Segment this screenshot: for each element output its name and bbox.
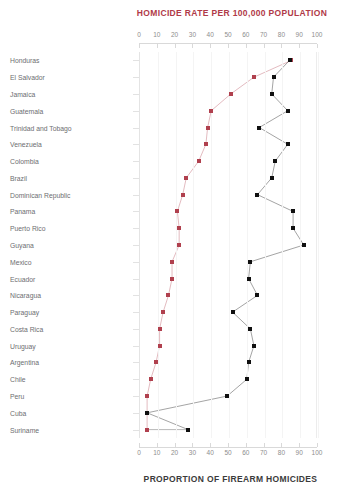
firearm-proportion-point[interactable] bbox=[248, 260, 252, 264]
homicide-rate-point[interactable] bbox=[177, 243, 181, 247]
homicide-rate-point[interactable] bbox=[177, 226, 181, 230]
homicide-rate-point[interactable] bbox=[145, 394, 149, 398]
firearm-proportion-point[interactable] bbox=[273, 159, 277, 163]
row-tick bbox=[133, 77, 139, 78]
axis-tick-label: 20 bbox=[171, 31, 178, 38]
homicide-rate-point[interactable] bbox=[229, 92, 233, 96]
axis-tick-label: 80 bbox=[278, 31, 285, 38]
axis-tick-label: 40 bbox=[207, 449, 214, 456]
homicide-rate-point[interactable] bbox=[175, 209, 179, 213]
axis-tick-label: 40 bbox=[207, 31, 214, 38]
category-label: Cuba bbox=[10, 409, 26, 416]
axis-tick-mark bbox=[281, 44, 282, 48]
axis-tick-label: 10 bbox=[153, 449, 160, 456]
axis-tick-label: 60 bbox=[242, 449, 249, 456]
category-label: Guatemala bbox=[10, 107, 43, 114]
firearm-proportion-point[interactable] bbox=[247, 360, 251, 364]
homicide-rate-point[interactable] bbox=[181, 193, 185, 197]
axis-tick-label: 50 bbox=[224, 449, 231, 456]
firearm-proportion-point[interactable] bbox=[288, 58, 292, 62]
category-label: Chile bbox=[10, 376, 26, 383]
axis-tick-label: 70 bbox=[260, 449, 267, 456]
homicide-rate-point[interactable] bbox=[158, 327, 162, 331]
firearm-proportion-point[interactable] bbox=[270, 176, 274, 180]
axis-tick-label: 90 bbox=[296, 449, 303, 456]
bottom-axis-title: PROPORTION OF FIREARM HOMICIDES bbox=[128, 474, 333, 484]
category-label: Honduras bbox=[10, 57, 39, 64]
axis-tick-mark bbox=[210, 44, 211, 48]
homicide-rate-point[interactable] bbox=[158, 344, 162, 348]
axis-tick-label: 80 bbox=[278, 449, 285, 456]
firearm-proportion-point[interactable] bbox=[247, 277, 251, 281]
axis-tick-label: 30 bbox=[189, 449, 196, 456]
category-label: Uruguay bbox=[10, 342, 36, 349]
firearm-proportion-point[interactable] bbox=[255, 193, 259, 197]
axis-tick-mark bbox=[264, 44, 265, 48]
category-label-column: HondurasEl SalvadorJamaicaGuatemalaTrini… bbox=[10, 52, 130, 438]
homicide-rate-point[interactable] bbox=[170, 277, 174, 281]
row-tick bbox=[133, 60, 139, 61]
axis-tick-label: 50 bbox=[224, 31, 231, 38]
homicide-rate-point[interactable] bbox=[161, 310, 165, 314]
row-tick bbox=[133, 111, 139, 112]
gridline bbox=[265, 52, 266, 438]
firearm-proportion-point[interactable] bbox=[255, 293, 259, 297]
row-tick bbox=[133, 211, 139, 212]
category-label: Costa Rica bbox=[10, 325, 43, 332]
category-label: Argentina bbox=[10, 359, 39, 366]
homicide-rate-point[interactable] bbox=[204, 142, 208, 146]
top-axis: 0102030405060708090100 bbox=[139, 31, 317, 45]
row-tick bbox=[133, 295, 139, 296]
row-tick bbox=[133, 178, 139, 179]
homicide-rate-point[interactable] bbox=[184, 176, 188, 180]
firearm-proportion-point[interactable] bbox=[145, 411, 149, 415]
axis-tick-mark bbox=[264, 443, 265, 447]
axis-tick-mark bbox=[299, 443, 300, 447]
row-tick bbox=[133, 161, 139, 162]
firearm-proportion-point[interactable] bbox=[231, 310, 235, 314]
top-axis-title: HOMICIDE RATE PER 100,000 POPULATION bbox=[132, 8, 332, 18]
axis-tick-mark bbox=[139, 44, 140, 48]
firearm-proportion-point[interactable] bbox=[225, 394, 229, 398]
homicide-rate-point[interactable] bbox=[149, 377, 153, 381]
firearm-proportion-point[interactable] bbox=[291, 226, 295, 230]
homicide-rate-point[interactable] bbox=[170, 260, 174, 264]
axis-tick-label: 70 bbox=[260, 31, 267, 38]
category-label: Mexico bbox=[10, 258, 32, 265]
homicide-rate-point[interactable] bbox=[206, 126, 210, 130]
row-tick bbox=[133, 346, 139, 347]
firearm-proportion-point[interactable] bbox=[252, 344, 256, 348]
axis-tick-mark bbox=[192, 443, 193, 447]
row-tick bbox=[133, 94, 139, 95]
firearm-proportion-point[interactable] bbox=[245, 377, 249, 381]
firearm-proportion-point[interactable] bbox=[186, 428, 190, 432]
category-label: Paraguay bbox=[10, 309, 39, 316]
axis-tick-label: 30 bbox=[189, 31, 196, 38]
firearm-proportion-point[interactable] bbox=[257, 126, 261, 130]
axis-tick-mark bbox=[157, 443, 158, 447]
axis-tick-label: 60 bbox=[242, 31, 249, 38]
firearm-proportion-point[interactable] bbox=[248, 327, 252, 331]
homicide-rate-point[interactable] bbox=[197, 159, 201, 163]
homicide-rate-point[interactable] bbox=[166, 293, 170, 297]
chart-root: HOMICIDE RATE PER 100,000 POPULATION 010… bbox=[0, 0, 339, 493]
firearm-proportion-point[interactable] bbox=[302, 243, 306, 247]
firearm-proportion-point[interactable] bbox=[291, 209, 295, 213]
row-tick bbox=[133, 245, 139, 246]
homicide-rate-point[interactable] bbox=[252, 75, 256, 79]
homicide-rate-point[interactable] bbox=[154, 360, 158, 364]
firearm-proportion-point[interactable] bbox=[272, 75, 276, 79]
homicide-rate-point[interactable] bbox=[209, 109, 213, 113]
homicide-rate-point[interactable] bbox=[145, 428, 149, 432]
firearm-proportion-point[interactable] bbox=[286, 142, 290, 146]
axis-tick-mark bbox=[175, 443, 176, 447]
plot-area bbox=[139, 52, 317, 438]
firearm-proportion-point[interactable] bbox=[270, 92, 274, 96]
gridline bbox=[318, 52, 319, 438]
row-tick bbox=[133, 396, 139, 397]
category-label: Colombia bbox=[10, 158, 39, 165]
axis-tick-mark bbox=[157, 44, 158, 48]
category-label: Jamaica bbox=[10, 90, 35, 97]
axis-tick-mark bbox=[192, 44, 193, 48]
firearm-proportion-point[interactable] bbox=[286, 109, 290, 113]
